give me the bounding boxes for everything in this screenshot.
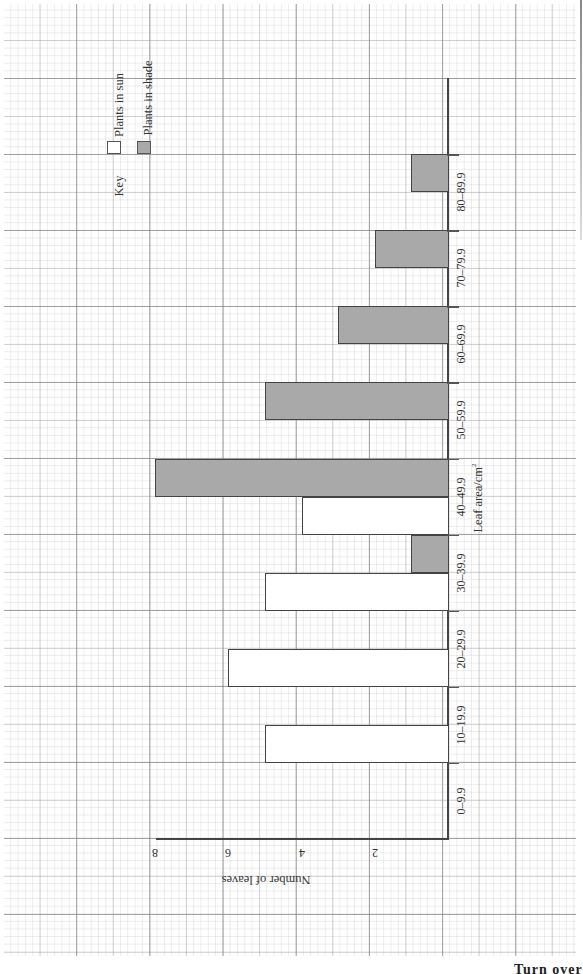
bar-shade (411, 535, 449, 573)
bar-shade (375, 230, 449, 268)
category-tick (447, 687, 459, 689)
count-axis-line (156, 838, 449, 840)
bar-sun (265, 573, 449, 611)
category-label: 40–49.9 (454, 477, 469, 516)
category-tick (447, 459, 459, 461)
category-tick (447, 535, 459, 537)
category-tick (447, 306, 459, 308)
page-edge (580, 0, 582, 240)
count-tick-label: 6 (225, 845, 231, 860)
x-axis-title: Leaf area/cm2 (470, 463, 485, 532)
bar-sun (302, 497, 449, 535)
count-tick-label: 8 (152, 845, 158, 860)
category-label: 80–89.9 (454, 173, 469, 212)
legend-label-sun: Plants in sun (112, 73, 127, 137)
category-tick (447, 763, 459, 765)
category-tick (447, 611, 459, 613)
turn-over-text: Turn over (514, 962, 583, 974)
category-tick (447, 382, 459, 384)
legend-title: Key (112, 176, 127, 197)
count-tick-label: 4 (299, 845, 305, 860)
category-label: 60–69.9 (454, 325, 469, 364)
category-label: 70–79.9 (454, 249, 469, 288)
bar-shade (338, 306, 449, 344)
category-label: 10–19.9 (454, 705, 469, 744)
count-tick-label: 2 (372, 845, 378, 860)
y-axis-title: Number of leaves (222, 872, 311, 887)
bar-sun (265, 725, 449, 763)
category-label: 50–59.9 (454, 401, 469, 440)
bar-shade (265, 382, 449, 420)
legend-label-shade: Plants in shade (141, 61, 156, 136)
category-tick (447, 230, 459, 232)
category-label: 20–29.9 (454, 629, 469, 668)
bar-sun (228, 649, 449, 687)
category-label: 30–39.9 (454, 553, 469, 592)
bar-shade (155, 459, 449, 497)
legend-swatch-sun (107, 141, 121, 154)
category-label: 0–9.9 (454, 787, 469, 814)
bar-shade (411, 154, 449, 192)
category-tick (447, 154, 459, 156)
legend-swatch-shade (137, 141, 151, 154)
